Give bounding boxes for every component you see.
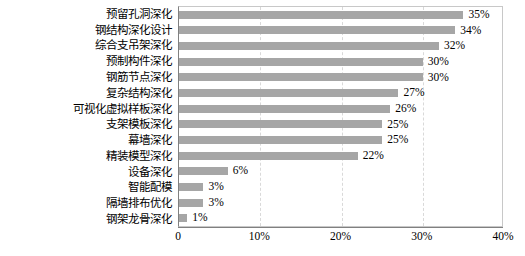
bar[interactable] [179, 136, 382, 144]
plot-area: 35%34%32%30%30%27%26%25%25%22%6%3%3%1% [178, 6, 503, 227]
bar-row: 25% [179, 120, 502, 128]
bar-value-label: 1% [192, 212, 207, 224]
bar-value-label: 32% [444, 40, 465, 52]
category-label: 精装模型深化 [106, 150, 176, 162]
bar-value-label: 26% [395, 103, 416, 115]
bar-row: 3% [179, 199, 502, 207]
bar-row: 1% [179, 214, 502, 222]
value-axis: 010%20%30%40% [178, 228, 503, 248]
bar[interactable] [179, 58, 423, 66]
value-tick-label: 10% [249, 230, 270, 242]
category-label: 钢结构深化设计 [95, 24, 176, 36]
bar-row: 22% [179, 152, 502, 160]
bar[interactable] [179, 214, 187, 222]
bar[interactable] [179, 120, 382, 128]
category-label: 支架模板深化 [106, 118, 176, 130]
category-label: 预留孔洞深化 [106, 8, 176, 20]
bar-value-label: 30% [428, 72, 449, 84]
bar-row: 27% [179, 89, 502, 97]
bars-layer: 35%34%32%30%30%27%26%25%25%22%6%3%3%1% [179, 7, 502, 226]
category-label: 预制构件深化 [106, 55, 176, 67]
bar-row: 30% [179, 73, 502, 81]
bar[interactable] [179, 183, 203, 191]
bar[interactable] [179, 73, 423, 81]
bar-row: 6% [179, 167, 502, 175]
bar-row: 26% [179, 105, 502, 113]
value-tick-label: 20% [330, 230, 351, 242]
category-label: 综合支吊架深化 [95, 39, 176, 51]
category-label: 钢筋节点深化 [106, 71, 176, 83]
bar-row: 30% [179, 58, 502, 66]
bar-row: 25% [179, 136, 502, 144]
bar-value-label: 6% [233, 165, 248, 177]
bar[interactable] [179, 167, 228, 175]
value-tick-label: 30% [411, 230, 432, 242]
bar-value-label: 34% [460, 25, 481, 37]
bar-row: 34% [179, 26, 502, 34]
bar-value-label: 25% [387, 119, 408, 131]
bar[interactable] [179, 152, 358, 160]
bar-chart: 预留孔洞深化钢结构深化设计综合支吊架深化预制构件深化钢筋节点深化复杂结构深化可视… [0, 0, 525, 256]
bar[interactable] [179, 11, 463, 19]
category-axis: 预留孔洞深化钢结构深化设计综合支吊架深化预制构件深化钢筋节点深化复杂结构深化可视… [0, 6, 176, 227]
category-label: 钢架龙骨深化 [106, 213, 176, 225]
bar[interactable] [179, 105, 390, 113]
category-label: 智能配模 [128, 181, 176, 193]
bar-value-label: 3% [208, 197, 223, 209]
category-label: 可视化虚拟样板深化 [73, 103, 176, 115]
bar-value-label: 3% [208, 181, 223, 193]
bar-row: 3% [179, 183, 502, 191]
value-tick-label: 40% [492, 230, 513, 242]
bar[interactable] [179, 199, 203, 207]
bar[interactable] [179, 26, 455, 34]
category-label: 设备深化 [128, 166, 176, 178]
bar-value-label: 22% [363, 150, 384, 162]
bar-value-label: 30% [428, 56, 449, 68]
bar-value-label: 25% [387, 134, 408, 146]
category-label: 隔墙排布优化 [106, 197, 176, 209]
bar[interactable] [179, 89, 398, 97]
category-label: 幕墙深化 [128, 134, 176, 146]
bar[interactable] [179, 42, 439, 50]
category-label: 复杂结构深化 [106, 87, 176, 99]
bar-row: 35% [179, 11, 502, 19]
value-tick-label: 0 [175, 230, 181, 242]
bar-row: 32% [179, 42, 502, 50]
bar-value-label: 27% [403, 87, 424, 99]
bar-value-label: 35% [468, 9, 489, 21]
